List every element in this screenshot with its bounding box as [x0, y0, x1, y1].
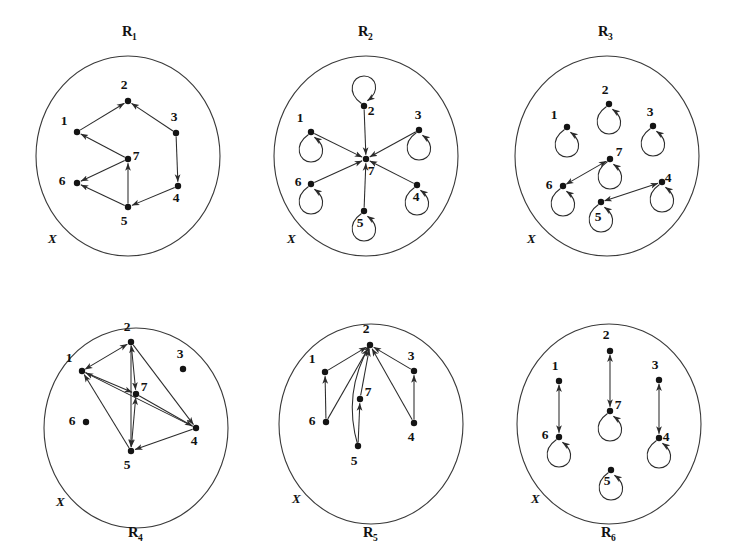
node-R4-2[interactable]: [128, 339, 134, 345]
relation-label-R3: R3: [598, 23, 613, 42]
node-R3-5[interactable]: [598, 199, 604, 205]
node-R6-3[interactable]: [656, 377, 662, 383]
node-label-R5-2: 2: [363, 321, 370, 336]
node-label-R4-5: 5: [124, 457, 131, 472]
node-label-R3-4: 4: [665, 170, 672, 185]
node-label-R5-5: 5: [351, 453, 358, 468]
node-R5-5[interactable]: [355, 443, 361, 449]
edge-1-to-2: [328, 347, 366, 370]
node-R2-1[interactable]: [308, 129, 314, 135]
relation-subscript-R6: 6: [611, 533, 616, 543]
node-R2-2[interactable]: [361, 103, 367, 109]
node-R1-7[interactable]: [125, 156, 131, 162]
relation-subscript-R3: 3: [608, 32, 613, 42]
node-label-R3-2: 2: [602, 82, 609, 97]
self-loop-R6-4: [647, 441, 670, 469]
node-label-R6-7: 7: [615, 397, 622, 412]
relation-subscript-R1: 1: [132, 32, 137, 42]
set-label-R3: X: [526, 231, 536, 246]
relation-subscript-R4: 4: [138, 533, 143, 543]
node-R3-3[interactable]: [650, 123, 656, 129]
node-R2-5[interactable]: [361, 208, 367, 214]
node-R5-7[interactable]: [357, 396, 363, 402]
node-R3-7[interactable]: [607, 156, 613, 162]
node-R4-6[interactable]: [83, 419, 89, 425]
self-loop-R3-2: [597, 107, 620, 135]
node-R3-1[interactable]: [564, 124, 570, 130]
edge-2-both-7: [131, 346, 135, 390]
node-R3-2[interactable]: [606, 101, 612, 107]
node-R1-1[interactable]: [74, 129, 80, 135]
node-label-R1-1: 1: [61, 113, 68, 128]
node-label-R4-1: 1: [66, 350, 73, 365]
edge-4-to-2: [372, 349, 412, 420]
set-label-R2: X: [286, 231, 296, 246]
node-R6-7[interactable]: [607, 408, 613, 414]
set-label-R6: X: [530, 491, 540, 506]
node-R6-1[interactable]: [556, 378, 562, 384]
node-R4-1[interactable]: [79, 368, 85, 374]
node-label-R2-5: 5: [357, 215, 364, 230]
node-label-R2-1: 1: [297, 110, 304, 125]
node-R2-4[interactable]: [414, 182, 420, 188]
node-R2-6[interactable]: [308, 181, 314, 187]
edge-7-to-1: [81, 134, 125, 157]
node-R1-5[interactable]: [125, 204, 131, 210]
node-R5-4[interactable]: [411, 420, 417, 426]
self-loop-R2-6: [299, 187, 322, 215]
edge-4-to-1: [86, 373, 193, 427]
relations-svg-canvas: R1X1234567R2X1234567R3X1234567R4X1234567…: [0, 0, 732, 553]
node-R6-4[interactable]: [656, 435, 662, 441]
node-label-R4-4: 4: [191, 433, 198, 448]
edge-6-to-2: [328, 349, 368, 419]
edge-2-to-7: [364, 110, 366, 155]
node-label-R2-2: 2: [368, 103, 375, 118]
node-R4-7[interactable]: [133, 391, 139, 397]
node-R5-1[interactable]: [322, 369, 328, 375]
node-label-R4-3: 3: [177, 346, 184, 361]
node-label-R2-3: 3: [415, 107, 422, 122]
node-label-R6-5: 5: [604, 473, 611, 488]
edge-7-to-4: [139, 396, 192, 426]
node-label-R1-6: 6: [59, 173, 66, 188]
relation-subscript-R2: 2: [368, 32, 373, 42]
panel-R6: R6X1234567: [517, 324, 701, 543]
self-loop-R6-6: [547, 440, 570, 468]
edge-6-to-1: [325, 376, 326, 418]
node-R6-6[interactable]: [556, 434, 562, 440]
node-R4-3[interactable]: [180, 366, 186, 372]
node-R5-6[interactable]: [323, 419, 329, 425]
edge-5-to-1: [84, 375, 129, 448]
edge-4-to-5: [135, 429, 193, 449]
panel-R3: R3X1234567: [515, 23, 699, 256]
node-R2-7[interactable]: [363, 156, 369, 162]
edge-3-to-2: [131, 103, 173, 131]
panel-R5: R5X1234567: [279, 321, 463, 543]
node-R6-2[interactable]: [607, 348, 613, 354]
self-loop-R2-3: [407, 133, 430, 161]
self-loop-R2-2: [352, 76, 375, 104]
edge-4-to-5: [132, 187, 175, 205]
edge-1-to-2: [80, 103, 124, 130]
node-label-R2-6: 6: [295, 174, 302, 189]
self-loop-R2-1: [299, 135, 322, 163]
node-R1-2[interactable]: [125, 98, 131, 104]
node-label-R3-1: 1: [551, 107, 558, 122]
node-label-R3-3: 3: [647, 104, 654, 119]
node-R3-6[interactable]: [560, 183, 566, 189]
node-R5-2[interactable]: [367, 342, 373, 348]
node-R2-3[interactable]: [416, 127, 422, 133]
node-R4-4[interactable]: [193, 425, 199, 431]
node-R1-6[interactable]: [74, 180, 80, 186]
relation-label-R5: R5: [363, 524, 378, 543]
panels-layer: R1X1234567R2X1234567R3X1234567R4X1234567…: [36, 23, 701, 543]
node-R5-3[interactable]: [411, 368, 417, 374]
node-R1-4[interactable]: [175, 183, 181, 189]
node-R4-5[interactable]: [128, 448, 134, 454]
node-label-R6-2: 2: [603, 327, 610, 342]
edge-6-to-7: [314, 161, 362, 183]
relation-label-R4: R4: [128, 524, 143, 543]
node-R1-3[interactable]: [173, 130, 179, 136]
edge-3-to-7: [370, 132, 416, 157]
edge-7-to-6: [81, 161, 125, 182]
